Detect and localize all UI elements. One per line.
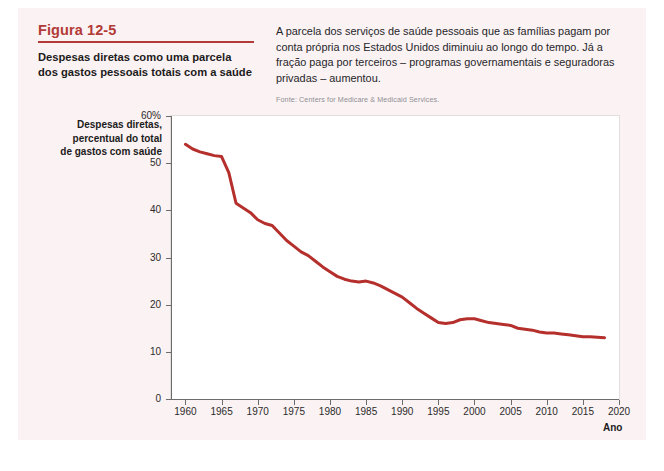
x-tick-mark bbox=[583, 400, 584, 405]
y-tick-mark bbox=[166, 305, 172, 306]
y-tick-label: 60% bbox=[127, 111, 161, 121]
x-tick-mark bbox=[366, 400, 367, 405]
x-tick-mark bbox=[438, 400, 439, 405]
x-tick-mark bbox=[222, 400, 223, 405]
figure-panel: Figura 12-5 Despesas diretas como uma pa… bbox=[18, 8, 646, 440]
y-tick-label: 10 bbox=[127, 347, 161, 357]
x-axis-title: Ano bbox=[603, 422, 622, 433]
figure-title-block: Figura 12-5 Despesas diretas como uma pa… bbox=[38, 22, 256, 81]
figure-subtitle: Despesas diretas como uma parcela dos ga… bbox=[38, 50, 252, 81]
x-tick-label: 2020 bbox=[599, 407, 639, 417]
figure-description: A parcela dos serviços de saúde pessoais… bbox=[276, 24, 630, 86]
y-tick-mark bbox=[166, 163, 172, 164]
figure-description-block: A parcela dos serviços de saúde pessoais… bbox=[276, 24, 630, 105]
x-tick-mark bbox=[258, 400, 259, 405]
x-tick-mark bbox=[547, 400, 548, 405]
x-tick-label: 1970 bbox=[238, 407, 278, 417]
series-path bbox=[185, 144, 604, 337]
data-series-line bbox=[38, 104, 630, 426]
x-tick-label: 1960 bbox=[165, 407, 205, 417]
y-tick-label: 30 bbox=[127, 253, 161, 263]
x-tick-label: 2010 bbox=[527, 407, 567, 417]
x-tick-label: 2015 bbox=[563, 407, 603, 417]
x-tick-mark bbox=[511, 400, 512, 405]
y-tick-label: 20 bbox=[127, 300, 161, 310]
x-tick-label: 1980 bbox=[310, 407, 350, 417]
y-tick-mark bbox=[166, 210, 172, 211]
x-tick-label: 1985 bbox=[346, 407, 386, 417]
y-tick-label: 50 bbox=[127, 158, 161, 168]
y-tick-mark bbox=[166, 116, 172, 117]
x-tick-label: 1990 bbox=[382, 407, 422, 417]
title-divider bbox=[38, 41, 254, 43]
chart-area: Despesas diretas,percentual do totalde g… bbox=[38, 104, 630, 426]
x-tick-mark bbox=[294, 400, 295, 405]
x-tick-label: 2005 bbox=[491, 407, 531, 417]
x-tick-mark bbox=[185, 400, 186, 405]
x-tick-label: 1995 bbox=[418, 407, 458, 417]
y-tick-mark bbox=[166, 258, 172, 259]
x-tick-mark bbox=[330, 400, 331, 405]
x-tick-label: 2000 bbox=[454, 407, 494, 417]
figure-header: Figura 12-5 Despesas diretas como uma pa… bbox=[38, 22, 630, 114]
y-tick-mark bbox=[166, 352, 172, 353]
y-tick-mark bbox=[166, 399, 172, 400]
x-tick-mark bbox=[474, 400, 475, 405]
x-tick-label: 1975 bbox=[274, 407, 314, 417]
x-tick-mark bbox=[402, 400, 403, 405]
y-tick-label: 40 bbox=[127, 205, 161, 215]
x-tick-mark bbox=[619, 400, 620, 405]
figure-number: Figura 12-5 bbox=[38, 22, 256, 39]
x-tick-label: 1965 bbox=[202, 407, 242, 417]
y-tick-label: 0 bbox=[127, 394, 161, 404]
